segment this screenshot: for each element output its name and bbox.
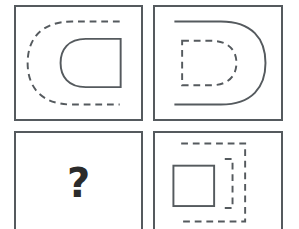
panel-d-figure — [155, 133, 281, 229]
small-solid-d-shape — [61, 39, 121, 87]
puzzle-panel-b[interactable] — [153, 5, 283, 121]
analogy-puzzle: ? — [0, 0, 299, 229]
panel-a-figure — [16, 7, 141, 119]
small-solid-square — [173, 166, 214, 206]
panel-b-figure — [155, 7, 281, 119]
small-dashed-d-shape — [182, 41, 236, 85]
puzzle-panel-a[interactable] — [14, 5, 143, 121]
large-dashed-bracket-shape — [181, 144, 245, 222]
question-mark: ? — [16, 133, 141, 229]
dashed-inner-step-detail — [225, 159, 233, 208]
large-dashed-d-shape — [28, 21, 120, 104]
puzzle-panel-d[interactable] — [153, 131, 283, 229]
large-solid-d-shape — [174, 21, 265, 104]
puzzle-panel-c-answer-slot[interactable]: ? — [14, 131, 143, 229]
